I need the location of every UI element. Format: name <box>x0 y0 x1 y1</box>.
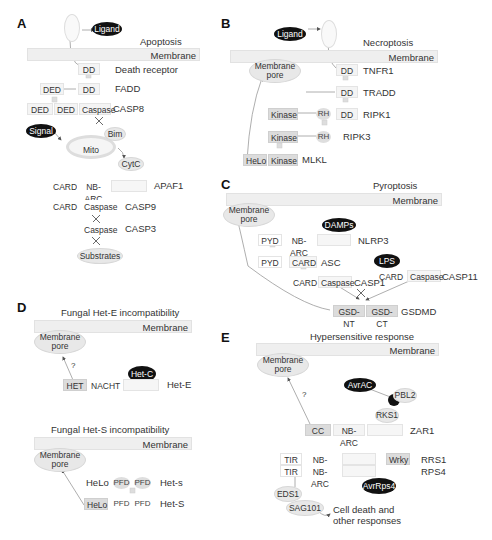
domain-helo: HeLo <box>86 477 109 489</box>
domain-kinase: Kinase <box>268 154 298 166</box>
domain-caspase: Caspase <box>81 223 113 235</box>
domain-pfd: PFD <box>113 477 130 489</box>
label-asc: ASC <box>321 257 341 269</box>
label-ripk1: RIPK1 <box>363 109 390 121</box>
label-casp8: CASP8 <box>113 103 144 115</box>
label-het-s: Het-s <box>160 477 183 489</box>
domain-card: CARD <box>289 256 317 268</box>
receptor-ectodomain <box>64 14 80 42</box>
panel-letter-c: C <box>221 177 230 192</box>
title-het-s: Fungal Het-S incompatibility <box>51 424 169 435</box>
domain-pfd: PFD <box>134 477 151 489</box>
domain-caspase: Caspase <box>81 200 113 212</box>
domain-dd: DD <box>336 86 358 98</box>
label-gsdmd: GSDMD <box>401 306 436 318</box>
domain-lrr <box>342 453 376 465</box>
domain-card: CARD <box>50 180 77 192</box>
domain-wrky: Wrky <box>386 453 410 465</box>
label-mlkl: MLKL <box>302 154 327 166</box>
domain-nacht: NACHT <box>88 379 120 391</box>
domain-rh: RH <box>316 108 331 120</box>
substrates: Substrates <box>77 248 123 264</box>
domain-caspase: Caspase <box>407 270 441 282</box>
membrane-pore-b: Membranepore <box>249 59 301 83</box>
domain-tir: TIR <box>280 453 302 465</box>
label-rps4: RPS4 <box>421 466 446 478</box>
label-fadd: FADD <box>115 83 140 95</box>
panel-letter-b: B <box>221 16 230 31</box>
label-zar1: ZAR1 <box>410 425 434 437</box>
domain-kinase: Kinase <box>268 131 298 143</box>
ligand-a: Ligand <box>92 22 122 36</box>
mito-label: Mito <box>83 145 99 155</box>
signal: Signal <box>26 124 56 138</box>
domain-pfd: PFD <box>134 498 151 510</box>
domain-wd40 <box>123 379 159 391</box>
domain-rh: RH <box>316 131 331 143</box>
domain-lrr <box>111 180 147 192</box>
title-pyroptosis: Pyroptosis <box>373 180 417 191</box>
rks1: RKS1 <box>375 408 399 423</box>
ligand-b: Ligand <box>274 27 306 41</box>
domain-card: CARD <box>50 200 77 212</box>
pbl2: PBL2 <box>393 388 417 403</box>
domain-gsd-ct: GSD-CT <box>366 305 398 317</box>
title-hypersensitive: Hypersensitive response <box>310 331 414 342</box>
domain-lrr <box>317 234 351 246</box>
domain-helo: HeLo <box>243 154 267 166</box>
bim: Bim <box>104 127 126 141</box>
membrane-pore-c: Membranepore <box>223 203 275 227</box>
domain-dd: DD <box>336 108 358 120</box>
membrane-pore-d-top: Membranepore <box>34 330 86 354</box>
membrane-a: Membrane <box>27 48 200 61</box>
domain-cc: CC <box>305 424 331 436</box>
label-casp9: CASP9 <box>125 201 156 213</box>
domain-pfd: PFD <box>113 498 130 510</box>
label-tnfr1: TNFR1 <box>363 65 394 77</box>
damps: DAMPs <box>322 218 356 232</box>
panel-letter-e: E <box>221 330 230 345</box>
label-casp3: CASP3 <box>125 223 156 235</box>
domain-nb-arc: NB-ARC <box>333 424 365 436</box>
question-mark: ? <box>302 389 306 401</box>
domain-gsd-nt: GSD-NT <box>333 305 365 317</box>
label-death-receptor: Death receptor <box>115 64 178 76</box>
domain-nb-arc: NB-ARC <box>77 180 110 192</box>
domain-nb-arc: NB-ARC <box>283 234 315 246</box>
cytc: CytC <box>118 157 144 171</box>
label-tradd: TRADD <box>363 87 396 99</box>
domain-lrr <box>367 424 403 436</box>
domain-lrr <box>342 465 376 477</box>
question-mark: ? <box>71 360 75 372</box>
label-apaf1: APAF1 <box>154 180 183 192</box>
label-het-e: Het-E <box>167 379 191 391</box>
domain-pyd: PYD <box>258 256 282 268</box>
panel-letter-d: D <box>17 300 26 315</box>
title-het-e: Fungal Het-E incompatibility <box>61 307 179 318</box>
avrrps4: AvrRps4 <box>362 478 396 494</box>
lps: LPS <box>374 254 400 268</box>
avrac: AvrAC <box>344 378 376 392</box>
label-het-S: Het-S <box>160 498 184 510</box>
domain-nb-arc: NB-ARC <box>304 465 336 477</box>
domain-helo: HeLo <box>84 498 108 510</box>
panel-letter-a: A <box>17 16 26 31</box>
outcome-label: Cell death andother responses <box>333 504 401 526</box>
receptor-ectodomain <box>321 20 337 48</box>
domain-tir: TIR <box>280 465 302 477</box>
label-casp1: CASP1 <box>354 277 385 289</box>
membrane-pore-e: Membranepore <box>257 353 309 377</box>
domain-caspase: Caspase <box>318 276 352 288</box>
domain-kinase: Kinase <box>268 108 298 120</box>
title-apoptosis: Apoptosis <box>140 36 182 47</box>
domain-dd: DD <box>78 63 100 75</box>
label-ripk3: RIPK3 <box>343 131 370 143</box>
domain-ded: DED <box>40 83 64 95</box>
domain-pyd: PYD <box>258 234 282 246</box>
sag101: SAG101 <box>286 500 324 516</box>
label-nlrp3: NLRP3 <box>358 235 389 247</box>
domain-card: CARD <box>290 276 318 288</box>
domain-ded: DED <box>27 103 53 115</box>
domain-dd: DD <box>336 64 358 76</box>
domain-nb-arc: NB-ARC <box>304 453 336 465</box>
